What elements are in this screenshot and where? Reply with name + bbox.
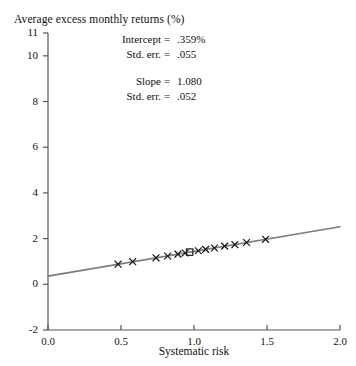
y-tick-label: 0 [12,277,38,289]
y-tick-label: 2 [12,232,38,244]
x-axis-ticks [48,325,340,330]
chart-figure: Average excess monthly returns (%) Inter… [0,0,356,366]
x-tick-label: 1.0 [174,335,214,347]
y-tick-label: 6 [12,140,38,152]
y-tick-label: 10 [12,49,38,61]
y-tick-label: 11 [12,26,38,38]
x-tick-label: 2.0 [320,335,356,347]
x-tick-label: 0.5 [101,335,141,347]
y-tick-label: 8 [12,95,38,107]
y-tick-label: -2 [12,323,38,335]
y-tick-label: 4 [12,186,38,198]
x-tick-label: 1.5 [247,335,287,347]
axes [48,33,340,330]
x-tick-label: 0.0 [28,335,68,347]
regression-line [48,227,340,276]
plot-area [0,0,356,366]
regression-fit-line [48,227,340,276]
y-axis-ticks [43,33,48,330]
